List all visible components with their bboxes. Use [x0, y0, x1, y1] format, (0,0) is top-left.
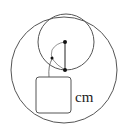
center-dot [63, 40, 67, 44]
answer-box[interactable] [36, 77, 71, 113]
tangent-dot [63, 68, 67, 72]
unit-label: cm [75, 89, 94, 105]
arc-dot [51, 57, 54, 60]
arc-marker [51, 42, 65, 70]
circle-diagram: cm [0, 0, 127, 137]
leader-line [49, 59, 52, 77]
